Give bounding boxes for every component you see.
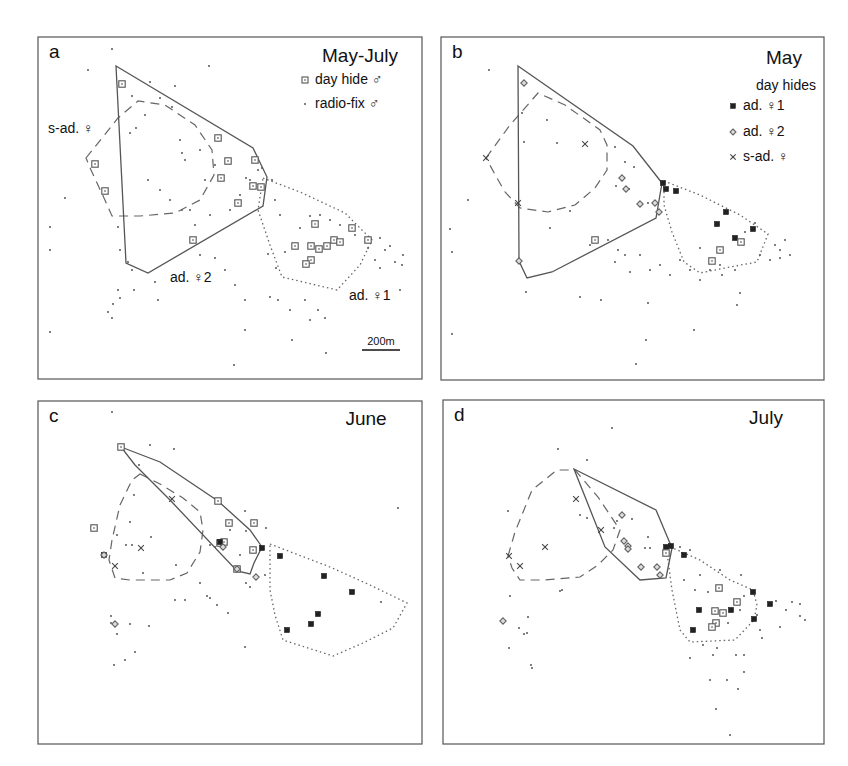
home-range-s-ad-female (109, 474, 203, 580)
square-marker (709, 624, 715, 630)
legend: day hide ♂radio-fix ♂ (302, 71, 382, 111)
panel-frame (38, 401, 422, 744)
filled-square-marker (732, 235, 737, 240)
legend-label: ad. ♀1 (743, 97, 785, 113)
cross-marker (730, 154, 735, 159)
panel-subtitle: day hides (756, 77, 816, 93)
square-marker (292, 243, 298, 249)
square-marker (709, 258, 715, 264)
square-marker (738, 239, 744, 245)
panel-title: June (345, 408, 386, 429)
filled-square-marker (728, 607, 733, 612)
filled-square-marker (767, 601, 772, 606)
panel-title: May (766, 47, 802, 68)
filled-square-marker (663, 186, 668, 191)
diamond-marker (619, 175, 625, 181)
panel-frame (38, 37, 422, 379)
square-marker (316, 246, 322, 252)
radio-fixes (449, 69, 791, 365)
legend-label: ad. ♀2 (743, 123, 785, 139)
square-marker (102, 188, 108, 194)
home-range-label: s-ad. ♀ (48, 120, 94, 136)
square-marker (337, 239, 343, 245)
diamond-marker (500, 618, 506, 624)
square-marker (349, 225, 355, 231)
diamond-marker (112, 621, 118, 627)
square-marker (331, 237, 337, 243)
home-range-s-ad-female (486, 93, 607, 212)
diamond-marker (637, 201, 643, 207)
square-marker (251, 520, 257, 526)
panel-title: July (749, 407, 783, 428)
diamond-marker (657, 572, 663, 578)
diamond-marker (730, 129, 736, 135)
legend-item: radio-fix ♂ (304, 95, 379, 111)
square-marker (118, 444, 124, 450)
square-marker (91, 525, 97, 531)
legend-label: s-ad. ♀ (743, 148, 789, 164)
legend-label: day hide ♂ (315, 71, 382, 87)
legend-item: ad. ♀2 (730, 123, 785, 139)
square-marker (303, 261, 309, 267)
panel-c: cJune (38, 401, 422, 744)
filled-square-marker (259, 545, 264, 550)
diamond-marker (652, 200, 658, 206)
square-marker (225, 158, 231, 164)
legend-item: ad. ♀1 (731, 97, 785, 113)
square-marker (663, 550, 669, 556)
square-marker (92, 161, 98, 167)
filled-square-marker (681, 552, 686, 557)
square-marker (250, 547, 256, 553)
cross-marker (138, 545, 144, 551)
legend-item: s-ad. ♀ (730, 148, 788, 164)
filled-square-marker (663, 544, 668, 549)
legend: ad. ♀1ad. ♀2s-ad. ♀ (730, 97, 789, 164)
diamond-marker (521, 80, 527, 86)
scale-bar-label: 200m (367, 335, 395, 347)
home-range-ad-female-2 (518, 66, 662, 278)
diamond-marker (654, 564, 660, 570)
panel-frame (443, 400, 824, 744)
square-marker (235, 200, 241, 206)
filled-square-marker (723, 209, 728, 214)
home-range-ad-female-1 (270, 544, 407, 656)
filled-square-marker (750, 226, 755, 231)
square-marker (252, 157, 258, 163)
diamond-marker (638, 564, 644, 570)
square-marker (312, 221, 318, 227)
home-range-s-ad-female (86, 101, 214, 216)
panel-a: aMay-Julyday hide ♂radio-fix ♂s-ad. ♀ad.… (38, 37, 422, 379)
cross-marker (483, 155, 489, 161)
square-marker (592, 237, 598, 243)
panel-letter: b (452, 41, 463, 62)
legend-label: radio-fix ♂ (315, 95, 379, 111)
diamond-marker (621, 538, 627, 544)
cross-marker (112, 563, 118, 569)
home-range-label: ad. ♀2 (170, 269, 212, 285)
day-hides (91, 444, 355, 633)
square-marker (302, 77, 308, 83)
square-marker (712, 608, 718, 614)
filled-square-marker (284, 627, 289, 632)
panel-b: bMayday hidesad. ♀1ad. ♀2s-ad. ♀ (441, 37, 824, 380)
home-range-label: ad. ♀1 (349, 287, 391, 303)
day-hides (500, 496, 773, 632)
square-marker (119, 81, 125, 87)
home-range-s-ad-female (508, 470, 620, 580)
filled-square-marker (690, 627, 695, 632)
scale-bar: 200m (362, 335, 400, 350)
panel-letter: d (454, 404, 465, 425)
filled-square-marker (714, 221, 719, 226)
square-marker (734, 599, 740, 605)
panel-title: May-July (322, 45, 399, 66)
filled-square-marker (751, 616, 756, 621)
filled-square-marker (668, 543, 673, 548)
filled-square-marker (696, 607, 701, 612)
square-marker (258, 184, 264, 190)
home-range-figure: aMay-Julyday hide ♂radio-fix ♂s-ad. ♀ad.… (0, 0, 848, 766)
diamond-marker (516, 258, 522, 264)
filled-square-marker (217, 539, 222, 544)
filled-square-marker (750, 589, 755, 594)
square-marker (226, 520, 232, 526)
filled-square-marker (308, 621, 313, 626)
